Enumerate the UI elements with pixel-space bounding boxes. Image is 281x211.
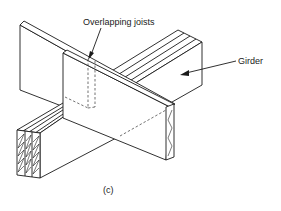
leader-overlapping-joists (88, 28, 101, 60)
label-overlapping-joists: Overlapping joists (83, 18, 155, 27)
diagram-canvas: Overlapping joists Girder (c) (0, 0, 281, 211)
joist-girder-drawing (0, 0, 281, 211)
label-girder: Girder (238, 57, 263, 66)
figure-caption: (c) (103, 186, 114, 195)
